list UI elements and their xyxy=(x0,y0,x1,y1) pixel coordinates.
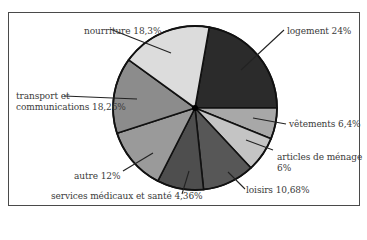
label-transport-line2: communications 18,26% xyxy=(16,102,126,113)
label-services: services médicaux et santé 4,36% xyxy=(51,191,202,202)
label-autre: autre 12% xyxy=(74,171,120,182)
label-articles-line1: articles de ménage xyxy=(277,152,362,163)
label-transport-line1: transport et xyxy=(16,91,69,102)
label-loisirs: loisirs 10,68% xyxy=(246,185,309,196)
pie-center-dot xyxy=(192,105,198,111)
label-logement: logement 24% xyxy=(287,26,351,37)
label-articles-line2: 6% xyxy=(277,163,291,174)
label-nourriture: nourriture 18,3% xyxy=(84,26,161,37)
label-vetements: vêtements 6,4% xyxy=(289,119,361,130)
